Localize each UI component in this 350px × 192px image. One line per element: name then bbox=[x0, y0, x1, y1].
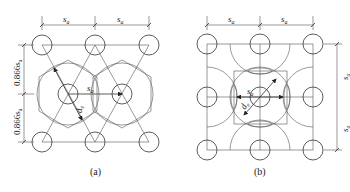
label-sa: sa bbox=[281, 14, 288, 25]
caption-b: (b) bbox=[254, 166, 266, 178]
dim-top-b bbox=[205, 16, 315, 30]
label-de: de bbox=[238, 100, 251, 112]
label-sa-right-lower: sa bbox=[340, 125, 350, 132]
dim-right-b bbox=[324, 42, 342, 152]
pile-layout-diagram: sa sa sa de 0.866sa 0.866sa (a) bbox=[0, 0, 350, 192]
label-inner-sa: sa bbox=[247, 86, 254, 97]
figure-a-triangular-layout: sa sa sa de 0.866sa 0.866sa (a) bbox=[12, 14, 159, 178]
label-sa: sa bbox=[117, 14, 124, 25]
dim-top-a bbox=[40, 16, 151, 30]
caption-a: (a) bbox=[90, 166, 101, 178]
figure-b-square-layout: sa sa sa de sa sa (b) bbox=[197, 14, 350, 178]
label-0866sa-upper: 0.866sa bbox=[12, 59, 23, 86]
label-sa: sa bbox=[228, 14, 235, 25]
label-sa-right-upper: sa bbox=[340, 73, 350, 80]
label-0866sa-lower: 0.866sa bbox=[12, 108, 23, 135]
label-sa: sa bbox=[63, 14, 70, 25]
